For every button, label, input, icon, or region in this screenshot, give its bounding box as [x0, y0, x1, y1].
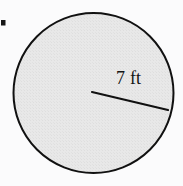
geometry-figure: 7 ft: [0, 0, 183, 186]
circle-diagram-canvas: [0, 0, 183, 186]
radius-length-label: 7 ft: [116, 68, 141, 88]
item-bullet-marker: [1, 20, 6, 26]
